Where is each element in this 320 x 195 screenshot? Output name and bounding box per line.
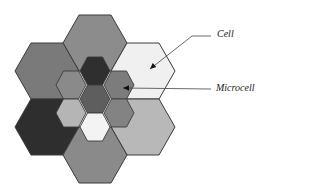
cell-label: Cell: [217, 29, 234, 39]
microcell-center: [80, 85, 110, 113]
microcell-label: Microcell: [216, 83, 255, 93]
